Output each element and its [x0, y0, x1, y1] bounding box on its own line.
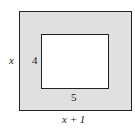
outer-height-label: x — [9, 55, 14, 66]
outer-width-label: x + 1 — [62, 114, 85, 125]
inner-height-label: 4 — [32, 55, 38, 66]
inner-width-label: 5 — [71, 92, 77, 103]
inner-rectangle — [41, 34, 109, 89]
